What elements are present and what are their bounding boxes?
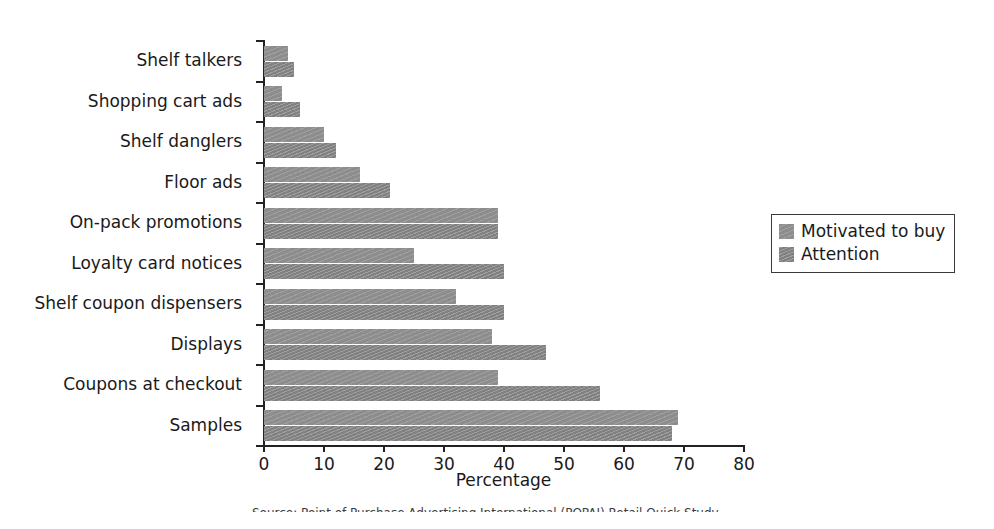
bar-attention: [264, 386, 600, 401]
bar-motivated-to-buy: [264, 46, 288, 61]
y-axis-tick: [256, 324, 264, 326]
y-axis-label-shelf-coupon-dispensers: Shelf coupon dispensers: [34, 293, 242, 313]
y-axis-label-shelf-talkers: Shelf talkers: [137, 50, 243, 70]
y-axis-label-coupons-at-checkout: Coupons at checkout: [63, 374, 242, 394]
y-axis-label-shopping-cart-ads: Shopping cart ads: [88, 91, 242, 111]
y-axis-tick: [256, 162, 264, 164]
x-axis-tick: [503, 445, 505, 452]
bar-attention: [264, 183, 390, 198]
y-axis-tick: [256, 40, 264, 42]
bar-chart: Shelf talkersShopping cart adsShelf dang…: [0, 0, 994, 529]
y-axis-tick: [256, 405, 264, 407]
y-axis-tick: [256, 202, 264, 204]
caption-strip: Source: Point of Purchase Advertising In…: [0, 505, 994, 529]
y-axis-label-floor-ads: Floor ads: [164, 172, 242, 192]
legend-swatch-icon: [779, 224, 794, 239]
x-axis-tick: [263, 445, 265, 452]
bar-attention: [264, 143, 336, 158]
y-axis-tick: [256, 283, 264, 285]
bar-attention: [264, 426, 672, 441]
y-axis-label-loyalty-card-notices: Loyalty card notices: [71, 253, 242, 273]
x-axis-tick: [443, 445, 445, 452]
y-axis-tick: [256, 364, 264, 366]
bar-attention: [264, 62, 294, 77]
bar-attention: [264, 305, 504, 320]
legend: Motivated to buy Attention: [771, 214, 955, 273]
bar-attention: [264, 264, 504, 279]
x-axis-tick: [683, 445, 685, 452]
x-axis-tick: [743, 445, 745, 452]
x-axis-title: Percentage: [263, 470, 744, 490]
y-axis-label-shelf-danglers: Shelf danglers: [120, 131, 242, 151]
bar-motivated-to-buy: [264, 370, 498, 385]
x-axis-tick: [323, 445, 325, 452]
legend-item-motivated-to-buy[interactable]: Motivated to buy: [779, 220, 945, 243]
bar-attention: [264, 224, 498, 239]
bar-motivated-to-buy: [264, 289, 456, 304]
figure-caption: Source: Point of Purchase Advertising In…: [252, 505, 719, 521]
bar-attention: [264, 102, 300, 117]
x-axis-tick: [563, 445, 565, 452]
bar-motivated-to-buy: [264, 167, 360, 182]
bar-motivated-to-buy: [264, 410, 678, 425]
axis-area: 01020304050607080: [263, 40, 743, 445]
bar-attention: [264, 345, 546, 360]
x-axis-tick: [383, 445, 385, 452]
y-axis-label-on-pack-promotions: On-pack promotions: [70, 212, 242, 232]
y-axis-tick: [256, 121, 264, 123]
legend-item-label: Attention: [801, 245, 879, 264]
legend-swatch-icon: [779, 247, 794, 262]
plot-area: Shelf talkersShopping cart adsShelf dang…: [0, 0, 994, 529]
bar-motivated-to-buy: [264, 248, 414, 263]
bar-motivated-to-buy: [264, 329, 492, 344]
y-axis-label-samples: Samples: [169, 415, 242, 435]
y-axis-category-labels: Shelf talkersShopping cart adsShelf dang…: [0, 40, 252, 445]
legend-item-attention[interactable]: Attention: [779, 243, 945, 266]
y-axis-tick: [256, 243, 264, 245]
legend-item-label: Motivated to buy: [801, 222, 945, 241]
bar-motivated-to-buy: [264, 208, 498, 223]
x-axis-tick: [623, 445, 625, 452]
bar-motivated-to-buy: [264, 86, 282, 101]
y-axis-tick: [256, 81, 264, 83]
bar-motivated-to-buy: [264, 127, 324, 142]
y-axis-label-displays: Displays: [170, 334, 242, 354]
